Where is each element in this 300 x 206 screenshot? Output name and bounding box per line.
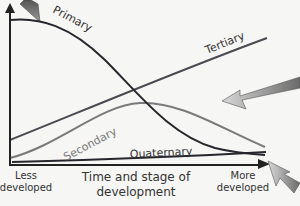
x-right-label-line2: developed — [217, 182, 269, 193]
x-axis-arrowhead-icon — [258, 159, 270, 169]
quaternary-label: Quaternary — [129, 145, 193, 161]
x-axis-title-line2: development — [96, 185, 175, 199]
x-left-label-line1: Less — [15, 170, 37, 181]
x-left-label-line2: developed — [0, 182, 52, 193]
tertiary-curve — [10, 38, 267, 140]
tertiary-label: Tertiary — [202, 29, 247, 57]
x-axis-title-line1: Time and stage of — [81, 170, 191, 184]
y-axis-arrowhead-icon — [5, 3, 15, 13]
chart-canvas: Primary Tertiary Secondary Quaternary Le… — [0, 0, 300, 206]
x-right-label-line1: More — [231, 170, 256, 181]
right-arrow-icon — [222, 77, 300, 109]
bottom-right-arrow-icon — [268, 161, 300, 193]
sector-development-chart: Primary Tertiary Secondary Quaternary Le… — [0, 0, 300, 206]
primary-label: Primary — [51, 3, 95, 35]
